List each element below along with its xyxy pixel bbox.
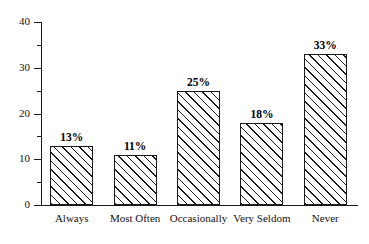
y-tick-label: 10 — [2, 153, 30, 164]
bar — [177, 91, 220, 205]
bar-chart: 010203040 13%Always11%Most Often25%Occas… — [0, 0, 369, 244]
y-tick-mark — [34, 205, 41, 206]
bar — [304, 54, 347, 205]
bars-layer: 13%Always11%Most Often25%Occasionally18%… — [41, 22, 358, 205]
bar-group: 13%Always — [50, 22, 93, 205]
y-tick-label: 20 — [2, 108, 30, 119]
bar-value-label: 25% — [165, 76, 232, 88]
y-tick-label: 0 — [2, 199, 30, 210]
x-axis-line — [41, 205, 358, 206]
bar-group: 33%Never — [304, 22, 347, 205]
y-tick-mark — [34, 159, 41, 160]
bar-group: 18%Very Seldom — [240, 22, 283, 205]
bar-group: 11%Most Often — [114, 22, 157, 205]
bar-group: 25%Occasionally — [177, 22, 220, 205]
y-tick-label: 30 — [2, 62, 30, 73]
y-tick-mark — [34, 22, 41, 23]
y-tick-label: 40 — [2, 16, 30, 27]
bar — [50, 146, 93, 205]
bar-value-label: 33% — [292, 39, 359, 51]
bar-value-label: 11% — [102, 140, 169, 152]
x-axis-category-label: Never — [282, 212, 369, 224]
y-tick-mark — [34, 68, 41, 69]
bar-value-label: 13% — [38, 131, 105, 143]
bar — [240, 123, 283, 205]
bar-value-label: 18% — [228, 108, 295, 120]
y-tick-mark — [34, 114, 41, 115]
bar — [114, 155, 157, 205]
